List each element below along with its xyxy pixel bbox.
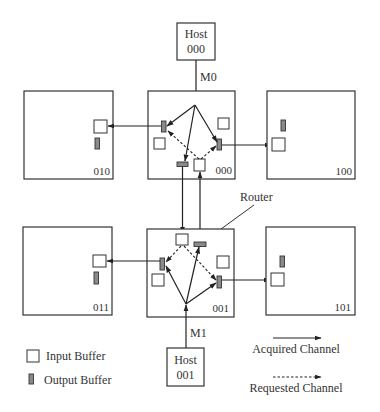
input-buffer [272,138,285,151]
output-buffer-south [177,162,188,167]
legend-input-buffer-icon [27,350,39,362]
input-buffer-north [176,234,188,245]
output-buffer-north [194,242,206,247]
router-001: 001 [147,229,234,317]
output-buffer [281,120,286,131]
router-011: 011 [23,227,112,315]
deadlock-diagram: Host 000 M0 010 000 100 Router [0,0,380,412]
router-callout-pointer [221,205,254,229]
input-buffer [218,118,229,129]
host-000-label-line1: Host [185,27,208,41]
output-buffer-west [162,121,167,132]
router-000: 000 [148,91,235,179]
host-001-label-line2: 001 [177,368,195,382]
output-buffer-east [217,276,222,288]
m1-label: M1 [190,326,207,340]
output-buffer [95,138,100,149]
router-010-label: 010 [94,165,111,177]
legend-input-buffer-label: Input Buffer [46,349,105,363]
input-buffer [154,138,165,149]
router-100-label: 100 [336,165,353,177]
router-001-label: 001 [213,302,230,314]
host-000-label-line2: 000 [187,42,205,56]
host-001-label-line1: Host [174,353,197,367]
router-010: 010 [24,91,113,179]
host-000: Host 000 [177,23,215,60]
input-buffer [271,273,284,286]
host-001: Host 001 [167,348,204,386]
m0-label: M0 [200,70,217,84]
input-buffer [152,274,164,286]
output-buffer [94,272,99,284]
output-buffer [280,256,285,267]
legend-output-buffer-label: Output Buffer [44,373,111,387]
input-buffer [217,256,229,268]
router-000-label: 000 [216,164,233,176]
input-buffer-south [194,159,205,171]
input-buffer [94,120,107,133]
legend-output-buffer-icon [29,374,34,384]
router-callout-label: Router [240,190,273,204]
input-buffer [93,255,106,267]
output-buffer-east [217,139,222,150]
legend-acquired-channel-label: Acquired Channel [252,342,340,356]
router-011-label: 011 [93,301,109,313]
output-buffer-west [160,258,165,270]
router-101-label: 101 [335,301,352,313]
router-100: 100 [267,91,355,179]
router-101: 101 [266,227,355,315]
legend-requested-channel-label: Requested Channel [250,381,344,395]
